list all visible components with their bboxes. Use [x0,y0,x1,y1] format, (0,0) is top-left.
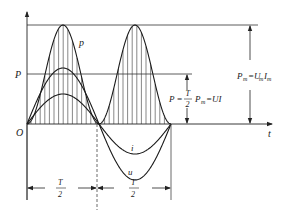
average-power-axis-label: P [14,69,21,80]
svg-text:T: T [131,178,136,187]
half-period-label-2: T 2 [129,178,139,199]
u-curve-label: u [128,167,133,177]
t-axis-label: t [268,128,271,139]
svg-text:P =: P = [168,94,183,104]
half-period-label-1: T 2 [56,178,66,199]
power-waveform-diagram: O t p i u P P = T 2 P m =UI P m =U m I m… [0,0,285,213]
peak-power-equation: P m =U m I m [236,71,272,82]
svg-text:2: 2 [58,190,62,199]
average-power-equation: P = T 2 P m =UI [168,89,223,109]
svg-text:P: P [236,71,243,81]
i-curve-label: i [131,143,134,153]
svg-text:P: P [194,94,201,104]
svg-text:T: T [186,89,191,98]
origin-label: O [16,127,23,138]
power-curve-p [27,25,171,124]
svg-text:2: 2 [186,100,190,109]
svg-text:m: m [267,76,272,82]
svg-text:T: T [58,178,63,187]
svg-text:=UI: =UI [206,94,223,104]
p-curve-label: p [78,37,84,48]
svg-text:2: 2 [131,190,135,199]
